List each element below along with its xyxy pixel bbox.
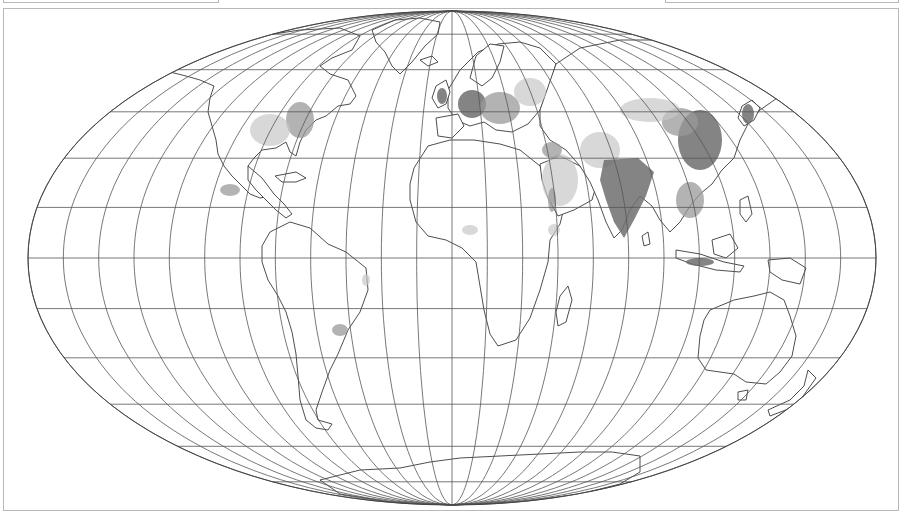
map-viewer [0, 0, 902, 512]
new-zealand [768, 370, 816, 416]
caribbean [275, 172, 306, 182]
world-map[interactable] [0, 0, 902, 512]
iceland [420, 56, 438, 66]
philippines [740, 196, 752, 222]
sri-lanka [642, 232, 650, 246]
australia [698, 292, 796, 384]
madagascar [556, 286, 572, 326]
iberia [436, 114, 464, 138]
new-guinea [768, 258, 806, 284]
